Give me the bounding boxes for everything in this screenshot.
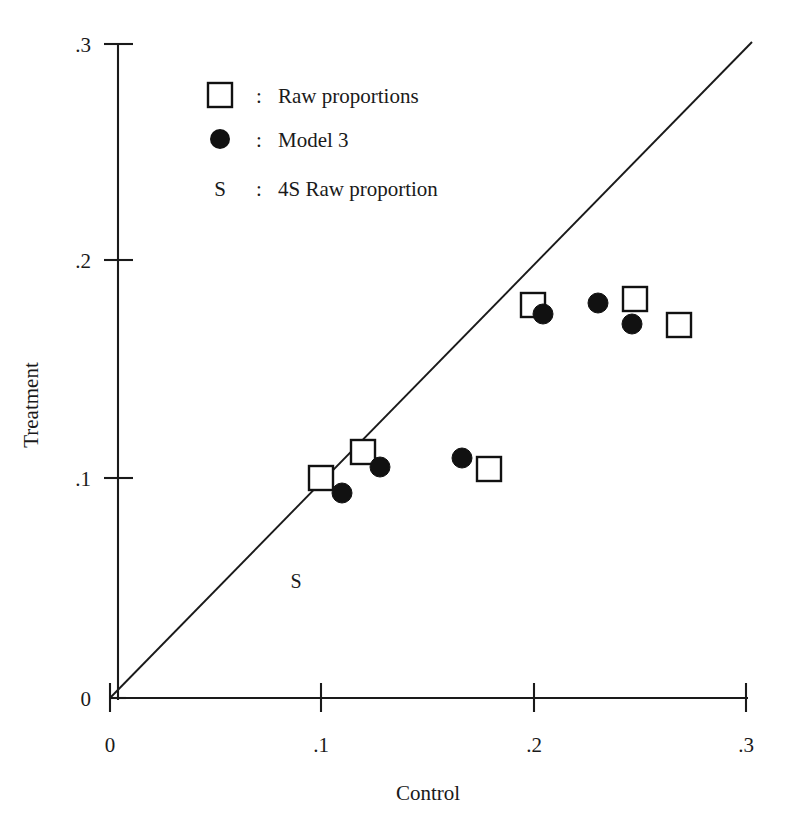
data-point-circle (452, 448, 472, 468)
data-point-circle (588, 293, 608, 313)
data-point-circle (622, 314, 642, 334)
y-tick-label-0: 0 (81, 687, 92, 711)
y-tick-label-0.3: .3 (75, 33, 91, 57)
legend-label-raw-proportions: Raw proportions (278, 84, 419, 108)
annotation-s-label: S (290, 570, 301, 592)
legend-separator: : (256, 84, 262, 108)
x-tick-label-0.1: .1 (313, 733, 329, 757)
legend-separator: : (256, 177, 262, 201)
data-point-square (351, 440, 375, 464)
data-point-square (667, 313, 691, 337)
legend-entry-raw-proportions: : Raw proportions (208, 83, 419, 108)
x-tick-label-0: 0 (105, 733, 116, 757)
legend-entry-model-3: : Model 3 (210, 128, 349, 152)
x-tick-label-0.3: .3 (738, 733, 754, 757)
data-point-circle (332, 483, 352, 503)
legend: : Raw proportions : Model 3 S : 4S Raw p… (208, 83, 438, 201)
data-point-square (623, 287, 647, 311)
y-axis-title: Treatment (19, 362, 43, 448)
plot-canvas: .3 .2 .1 0 0 .1 .2 .3 Treatment Control (0, 0, 786, 814)
y-tick-label-0.1: .1 (75, 467, 91, 491)
legend-label-4s-raw-proportion: 4S Raw proportion (278, 177, 438, 201)
y-tick-labels: .3 .2 .1 0 (75, 33, 91, 711)
scatter-plot-figure: .3 .2 .1 0 0 .1 .2 .3 Treatment Control (0, 0, 786, 814)
legend-s-icon: S (214, 177, 226, 201)
data-point-circle (370, 457, 390, 477)
identity-reference-line (110, 42, 752, 698)
legend-circle-icon (210, 129, 230, 149)
data-point-square (477, 457, 501, 481)
data-point-circle (533, 304, 553, 324)
data-point-square (309, 466, 333, 490)
x-tick-labels: 0 .1 .2 .3 (105, 733, 754, 757)
legend-separator: : (256, 128, 262, 152)
legend-square-icon (208, 83, 232, 107)
legend-entry-4s-raw-proportion: S : 4S Raw proportion (214, 177, 438, 201)
x-tick-label-0.2: .2 (526, 733, 542, 757)
legend-label-model-3: Model 3 (278, 128, 349, 152)
y-tick-label-0.2: .2 (75, 249, 91, 273)
x-axis-title: Control (396, 781, 460, 805)
